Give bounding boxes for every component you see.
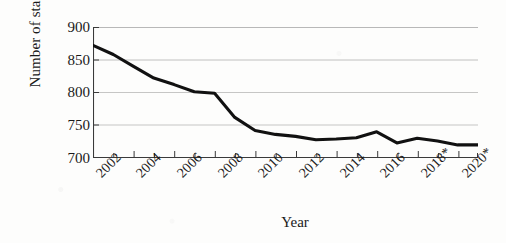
y-tick-850: 850 — [46, 53, 90, 68]
y-tick-800: 800 — [46, 85, 90, 100]
x-axis-tick-labels: 2002 2004 2006 2008 2010 2012 2014 2016 … — [93, 160, 493, 220]
y-tick-700: 700 — [46, 151, 90, 166]
chart-svg — [93, 27, 478, 158]
x-axis-title: Year — [255, 214, 335, 231]
y-axis-tick-labels: 900 850 800 750 700 — [44, 0, 90, 243]
y-tick-900: 900 — [46, 20, 90, 35]
y-tick-750: 750 — [46, 118, 90, 133]
line-chart-figure: Number of staff 900 850 800 750 700 — [0, 0, 506, 243]
plot-area — [93, 27, 478, 158]
